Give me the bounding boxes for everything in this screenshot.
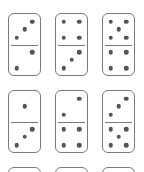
domino-half-top xyxy=(9,14,40,45)
pip-icon xyxy=(124,96,129,101)
domino-divider xyxy=(105,122,132,123)
domino-half-top xyxy=(56,14,87,45)
domino-tile[interactable] xyxy=(55,90,88,153)
domino-half-top xyxy=(9,168,40,172)
domino-divider xyxy=(11,122,38,123)
pip-icon xyxy=(22,135,27,140)
domino-tile[interactable] xyxy=(8,90,41,153)
domino-half-top xyxy=(103,91,134,122)
domino-tile[interactable] xyxy=(102,13,135,76)
domino-half-top xyxy=(56,91,87,122)
domino-half-top xyxy=(56,168,87,172)
domino-half-bottom xyxy=(9,122,40,153)
pip-icon xyxy=(62,66,67,71)
domino-divider xyxy=(58,122,85,123)
domino-tile[interactable] xyxy=(55,13,88,76)
domino-half-bottom xyxy=(103,45,134,76)
pip-icon xyxy=(62,19,67,24)
domino-half-top xyxy=(9,91,40,122)
domino-half-top xyxy=(103,14,134,45)
domino-divider xyxy=(58,45,85,46)
pip-icon xyxy=(124,36,129,41)
domino-divider xyxy=(105,45,132,46)
pip-icon xyxy=(116,135,121,140)
pip-icon xyxy=(124,19,129,24)
pip-icon xyxy=(124,143,129,148)
pip-icon xyxy=(124,50,129,55)
pip-icon xyxy=(109,66,114,71)
pip-icon xyxy=(69,58,74,63)
domino-half-bottom xyxy=(103,122,134,153)
pip-icon xyxy=(15,143,20,148)
domino-tile[interactable] xyxy=(55,167,88,172)
pip-icon xyxy=(15,66,20,71)
pip-icon xyxy=(77,36,82,41)
pip-icon xyxy=(77,19,82,24)
domino-half-bottom xyxy=(9,45,40,76)
pip-icon xyxy=(116,27,121,32)
domino-tile[interactable] xyxy=(8,13,41,76)
pip-icon xyxy=(109,127,114,132)
domino-half-bottom xyxy=(56,122,87,153)
pip-icon xyxy=(30,127,35,132)
pip-icon xyxy=(62,113,67,118)
domino-half-bottom xyxy=(56,45,87,76)
domino-half-top xyxy=(103,168,134,172)
pip-icon xyxy=(77,143,82,148)
pip-icon xyxy=(109,143,114,148)
pip-icon xyxy=(109,50,114,55)
pip-icon xyxy=(62,143,67,148)
domino-divider xyxy=(11,45,38,46)
pip-icon xyxy=(109,19,114,24)
pip-icon xyxy=(109,113,114,118)
pip-icon xyxy=(62,36,67,41)
domino-tile[interactable] xyxy=(8,167,41,172)
pip-icon xyxy=(116,104,121,109)
pip-icon xyxy=(109,36,114,41)
pip-icon xyxy=(30,50,35,55)
pip-icon xyxy=(77,50,82,55)
domino-tile[interactable] xyxy=(102,167,135,172)
pip-icon xyxy=(124,66,129,71)
pip-icon xyxy=(77,127,82,132)
pip-icon xyxy=(22,104,27,109)
pip-icon xyxy=(22,27,27,32)
pip-icon xyxy=(62,127,67,132)
pip-icon xyxy=(124,127,129,132)
pip-icon xyxy=(30,19,35,24)
domino-tile[interactable] xyxy=(102,90,135,153)
pip-icon xyxy=(15,36,20,41)
pip-icon xyxy=(77,96,82,101)
